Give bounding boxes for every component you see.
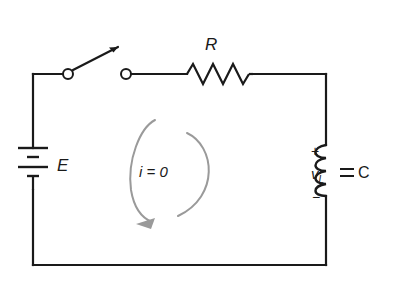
resistor-label: R — [205, 36, 217, 53]
switch-terminal-right — [121, 69, 131, 79]
inductor-voltage-subscript: L — [319, 174, 325, 185]
source-label: E — [57, 157, 68, 174]
switch-terminal-left — [63, 69, 73, 79]
open-switch — [63, 47, 131, 79]
switch-blade — [73, 47, 118, 70]
polarity-plus-label: + — [311, 144, 319, 158]
equals-sign-marks — [340, 169, 354, 176]
current-label: i = 0 — [139, 164, 168, 179]
current-arrowhead — [136, 218, 155, 229]
inductor-voltage-symbol: v — [311, 165, 319, 182]
polarity-minus-label: − — [312, 190, 320, 204]
resistor-zigzag — [187, 64, 253, 84]
capacitor-label: C — [358, 165, 370, 181]
circuit-schematic-svg — [0, 0, 401, 293]
battery-symbol — [18, 148, 48, 190]
circuit-diagram: E R i = 0 vL C + − — [0, 0, 401, 293]
inductor-voltage-label: vL — [311, 166, 324, 185]
